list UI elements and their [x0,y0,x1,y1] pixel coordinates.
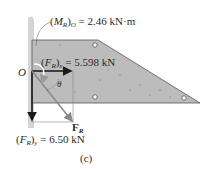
moment-label: (MR)O = 2.46 kN·m [50,16,135,29]
origin-label: O [18,67,26,78]
force-x-label: (FR)x = 5.598 kN [41,57,115,70]
force-y-label: (FR)y = 6.50 kN [16,134,85,147]
angle-label: θ [57,80,61,89]
figure-caption: (c) [80,153,92,164]
